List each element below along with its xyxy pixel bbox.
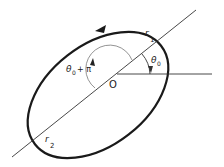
direction-arrow-icon bbox=[95, 25, 106, 33]
r2-subscript: 2 bbox=[50, 142, 54, 150]
theta0-subscript: 0 bbox=[157, 60, 161, 67]
theta0-arc bbox=[142, 54, 150, 74]
r1-subscript: 1 bbox=[150, 36, 154, 44]
theta0-arrow-icon bbox=[148, 66, 153, 73]
diagram-canvas: O r 1 r 2 θ 0 θ 0 + π bbox=[0, 0, 224, 167]
theta0-pi-subscript: 0 bbox=[72, 69, 76, 76]
origin-label: O bbox=[109, 79, 117, 90]
theta0-pi-suffix: + π bbox=[77, 65, 91, 74]
orbit-diagram: O r 1 r 2 θ 0 θ 0 + π bbox=[0, 0, 224, 167]
